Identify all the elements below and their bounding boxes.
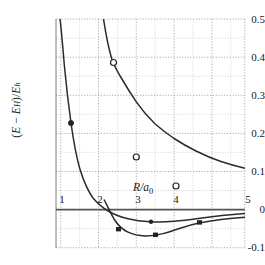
data-point-marker [68, 120, 73, 125]
y-tick-label: 0.4 [219, 52, 265, 63]
x-axis-label: R/a0 [133, 181, 153, 198]
x-tick-label: 2 [90, 194, 110, 205]
data-point-marker [149, 220, 153, 224]
y-tick-label: 0.1 [219, 166, 265, 177]
data-point-marker [133, 154, 139, 160]
data-point-marker [173, 183, 179, 189]
x-tick-label: 1 [52, 194, 72, 205]
data-point-marker [197, 220, 202, 224]
y-tick-label: 0.5 [219, 14, 265, 25]
markers-antibonding-steep [68, 120, 73, 125]
markers-steep-extra [149, 220, 153, 224]
y-tick-label: 0.3 [219, 90, 265, 101]
figure: (E − EH)/Eh 0.5 0.4 0.3 0.2 0.1 0 -0.1 1… [0, 0, 265, 265]
y-tick-label: -0.1 [219, 242, 265, 253]
y-tick-label: 0.2 [219, 128, 265, 139]
y-axis-label: (E − EH)/Eh [10, 50, 22, 170]
x-tick-label: 4 [166, 194, 186, 205]
data-point-marker [153, 233, 158, 237]
x-tick-label: 5 [238, 194, 258, 205]
data-point-marker [111, 60, 117, 66]
data-point-marker [116, 227, 121, 231]
y-tick-label: 0 [219, 204, 265, 215]
